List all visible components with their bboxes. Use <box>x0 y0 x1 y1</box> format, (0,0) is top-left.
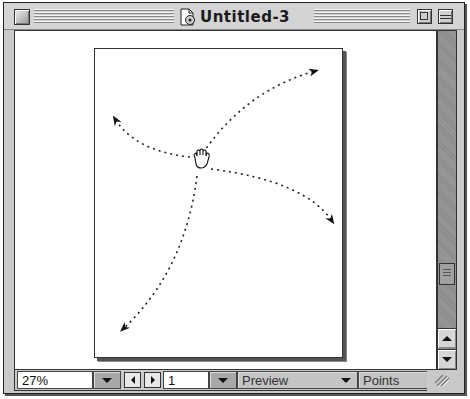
zoom-field[interactable]: 27% <box>17 371 93 389</box>
chevron-down-icon <box>341 378 351 383</box>
zoom-box-icon[interactable] <box>417 9 432 24</box>
hand-grab-icon <box>194 149 209 168</box>
scroll-thumb[interactable] <box>439 263 455 285</box>
close-box-icon[interactable] <box>14 9 30 25</box>
view-mode-popup[interactable]: Preview <box>237 371 358 389</box>
resize-grip[interactable] <box>427 370 457 391</box>
units-popup[interactable]: Points <box>358 371 428 389</box>
status-bar: 27% 1 Preview Points <box>14 370 457 391</box>
window-title-text: Untitled-3 <box>200 8 290 26</box>
arrow-down-icon <box>442 357 452 362</box>
chevron-down-icon <box>218 378 228 383</box>
page-number-field[interactable]: 1 <box>163 371 209 389</box>
document-window: Untitled-3 <box>3 2 465 394</box>
units-label: Points <box>363 373 399 388</box>
next-page-button[interactable] <box>144 372 161 388</box>
arrow-right-icon <box>151 376 155 384</box>
collapse-box-icon[interactable] <box>438 9 453 24</box>
title-stripes-right <box>314 9 410 23</box>
title-stripes-left <box>34 9 174 23</box>
view-mode-label: Preview <box>242 373 288 388</box>
scroll-up-button[interactable] <box>438 328 456 348</box>
canvas-area[interactable] <box>14 30 437 370</box>
arrow-left-icon <box>131 376 135 384</box>
scroll-down-button[interactable] <box>438 349 456 369</box>
previous-page-button[interactable] <box>124 372 141 388</box>
arrow-up-icon <box>442 336 452 341</box>
arrow-drawing <box>15 31 437 370</box>
title-bar[interactable]: Untitled-3 <box>4 3 464 30</box>
page-dropdown-button[interactable] <box>209 371 237 389</box>
vertical-scrollbar[interactable] <box>437 30 457 370</box>
zoom-dropdown-button[interactable] <box>93 371 121 389</box>
chevron-down-icon <box>102 378 112 383</box>
window-title: Untitled-3 <box>176 6 294 28</box>
resize-grip-icon <box>434 374 450 388</box>
document-icon <box>180 8 196 26</box>
